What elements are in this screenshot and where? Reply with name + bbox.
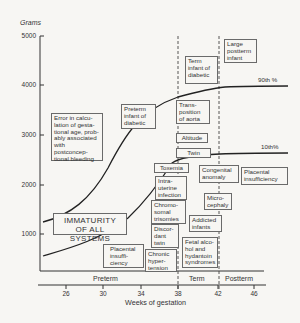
- y-tick-1000: 1000: [10, 230, 36, 237]
- box-line: Altitude: [179, 135, 205, 142]
- box-line: of aorta: [179, 116, 207, 123]
- box-line: insufficiency: [244, 176, 285, 183]
- box-altitude: Altitude: [176, 133, 208, 143]
- period-postterm: Postterm: [225, 275, 253, 282]
- y-tick-5000: 5000: [10, 32, 36, 39]
- box-line: syndromes: [185, 259, 215, 266]
- box-preterm-diabetic: Preterm infant of diabetic: [121, 104, 156, 129]
- period-preterm: Preterm: [93, 275, 118, 282]
- box-line: anomaly: [202, 174, 236, 181]
- x-axis-title: Weeks of gestation: [125, 299, 186, 306]
- x-tick-34: 34: [134, 290, 148, 297]
- box-chronic-hypertension: Chronic hyper- tension: [145, 249, 177, 272]
- label-10th-percentile: 10th%: [261, 143, 279, 150]
- box-gestational-error: Error in calcu- lation of gesta- tional …: [51, 113, 103, 161]
- box-line: infant: [227, 55, 254, 62]
- x-tick-42: 42: [211, 290, 225, 297]
- period-term: Term: [189, 275, 205, 282]
- box-transposition-aorta: Trans- position of aorta: [176, 100, 210, 124]
- box-line: tional bleeding: [54, 156, 100, 163]
- x-tick-30: 30: [96, 290, 110, 297]
- box-toxemia: Toxemia: [154, 163, 189, 173]
- box-chromosomal-trisomies: Chromo- somal trisomies: [151, 200, 186, 224]
- box-discordant-twin: Discor- dant twin: [151, 224, 179, 248]
- box-congenital-anomaly: Congenital anomaly: [199, 165, 239, 183]
- y-axis-ticks: [40, 36, 44, 234]
- box-line: trisomies: [154, 216, 183, 223]
- box-line: OF ALL SYSTEMS: [56, 225, 124, 243]
- box-large-postterm: Large postterm infant: [224, 39, 257, 63]
- box-line: infants: [192, 224, 219, 231]
- y-tick-3000: 3000: [10, 131, 36, 138]
- label-90th-percentile: 90th %: [258, 76, 277, 83]
- box-line: Toxemia: [157, 165, 186, 172]
- box-line: tension: [148, 265, 174, 272]
- box-line: with postconcep-: [54, 142, 100, 156]
- x-tick-38: 38: [171, 290, 185, 297]
- box-microcephaly: Micro- cephaly: [204, 193, 232, 210]
- box-addicted-infants: Addicted infants: [189, 215, 222, 232]
- box-line: diabetic: [124, 120, 153, 127]
- box-line: infection: [158, 192, 184, 199]
- box-placental-insufficiency-term: Placental insufficiency: [241, 167, 288, 185]
- box-line: twin: [154, 240, 176, 247]
- box-fetal-alcohol-hydantoin: Fetal alco- hol and hydantoin syndromes: [182, 237, 218, 268]
- x-tick-26: 26: [59, 290, 73, 297]
- box-line: cephaly: [207, 202, 229, 209]
- box-immaturity-all-systems: IMMATURITY OF ALL SYSTEMS: [53, 213, 127, 235]
- box-intrauterine-infection: Intra- uterine infection: [155, 176, 187, 200]
- x-axis-ticks: [66, 285, 254, 289]
- y-axis-title: Grams: [20, 19, 41, 26]
- y-tick-4000: 4000: [10, 81, 36, 88]
- box-line: ciency: [110, 260, 141, 267]
- box-line: Twin: [179, 150, 208, 157]
- box-placental-insufficiency-preterm: Placental insuffi- ciency: [103, 244, 144, 268]
- box-twin: Twin: [176, 148, 211, 158]
- box-line: IMMATURITY: [56, 216, 124, 225]
- y-tick-2000: 2000: [10, 181, 36, 188]
- box-term-diabetic: Term infant of diabetic: [185, 56, 218, 84]
- x-tick-46: 46: [247, 290, 261, 297]
- box-line: diabetic: [188, 72, 215, 79]
